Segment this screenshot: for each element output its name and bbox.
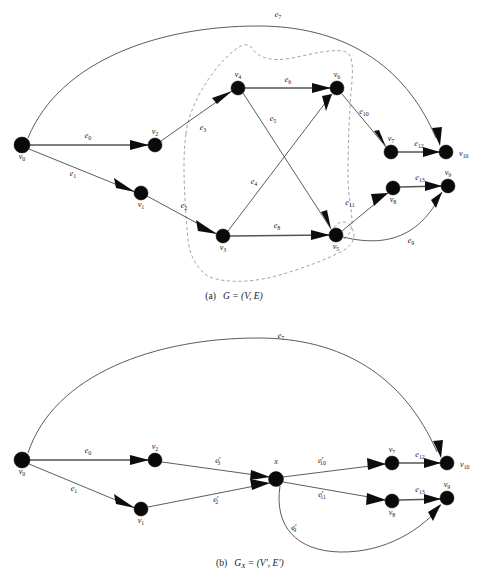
panel-a-group: v0 v1 v2 v3 v4 v5 v6 v7 v8 v9 v10 e0 e1 …	[14, 10, 469, 302]
node-b-v0[interactable]	[14, 452, 30, 468]
edge-e4-arrowhead	[322, 94, 332, 111]
edge-e1-arrowhead	[114, 178, 135, 192]
edge-b-e13-arrowhead	[424, 494, 441, 504]
edge-label-b-e12: e12	[415, 450, 425, 460]
edge-e13-arrowhead	[425, 181, 442, 191]
edge-e9-arrowhead	[431, 192, 442, 208]
edge-label-e4: e4	[251, 177, 258, 187]
figure-root: v0 v1 v2 v3 v4 v5 v6 v7 v8 v9 v10 e0 e1 …	[0, 0, 485, 580]
node-v3[interactable]	[216, 229, 230, 243]
node-label-v1: v1	[138, 200, 145, 210]
edge-label-b-e9p: e′9	[291, 523, 297, 533]
edge-label-e2: e2	[181, 201, 188, 211]
node-v7[interactable]	[384, 145, 398, 159]
node-b-x[interactable]	[269, 472, 284, 487]
panel-a-edge-labels: e0 e1 e2 e3 e4 e5 e6 e7 e8 e9 e10 e11 e1…	[70, 10, 425, 246]
node-sub-v5: 5	[336, 246, 339, 252]
node-sub-v7: 7	[391, 138, 394, 144]
node-label-v0: v0	[19, 152, 26, 162]
node-label-b-v10: v10	[460, 460, 470, 470]
edge-e7-path	[28, 26, 436, 138]
node-b-v10[interactable]	[440, 456, 454, 470]
edge-e10-arrowhead	[374, 130, 386, 147]
caption-panel-a: (a)G = (V, E)	[205, 290, 263, 302]
panel-b-nodes	[14, 452, 454, 516]
node-v5[interactable]	[329, 228, 343, 242]
edge-e6-arrowhead	[312, 83, 331, 93]
edge-label-b-e10p: e′10	[318, 456, 326, 466]
edge-b-e3prime-arrowhead	[250, 470, 270, 480]
edge-label-e9: e9	[408, 236, 415, 246]
edge-label-e8: e8	[274, 221, 281, 231]
edge-label-e13: e13	[415, 173, 425, 183]
edge-label-e6: e6	[285, 75, 292, 85]
node-b-v2[interactable]	[148, 453, 162, 467]
node-label-b-v9: v9	[444, 480, 451, 490]
panel-a-nodes	[14, 81, 455, 243]
edge-b-e7-path	[28, 338, 437, 453]
node-sub-v10: 10	[463, 153, 469, 159]
node-b-v1[interactable]	[134, 502, 148, 516]
node-v1[interactable]	[134, 186, 148, 200]
edge-label-b-e1: e1	[71, 484, 78, 494]
node-b-v8[interactable]	[385, 494, 399, 508]
cluster-boundary-dashed	[184, 45, 354, 282]
edge-e8-arrowhead	[311, 230, 330, 240]
node-sub-v6: 6	[337, 74, 340, 80]
edge-b-e9prime-arrowhead	[428, 504, 441, 521]
node-v2[interactable]	[148, 138, 162, 152]
caption-panel-b: (b)GX = (V', E')	[216, 557, 284, 570]
edge-b-e10prime-arrowhead	[367, 458, 386, 470]
edge-label-e12: e12	[414, 139, 424, 149]
edge-label-e0: e0	[85, 131, 92, 141]
panel-b-group: v0 v1 v2 x v7 v8 v9 v10 e0 e1 e′2 e′3 e7…	[14, 331, 470, 570]
edge-label-e7: e7	[275, 10, 282, 20]
node-label-v7: v7	[388, 134, 395, 144]
edge-e10-path	[342, 94, 386, 147]
node-v4[interactable]	[231, 81, 245, 95]
node-v9[interactable]	[441, 179, 455, 193]
edge-label-e10: e10	[359, 107, 369, 117]
node-label-b-v7: v7	[389, 445, 396, 455]
edge-b-e2prime-arrowhead	[250, 479, 270, 490]
edge-b-e1-arrowhead	[114, 494, 135, 508]
node-b-v7[interactable]	[385, 456, 399, 470]
node-sub-v3: 3	[223, 247, 226, 253]
node-sub-v1: 1	[141, 204, 144, 210]
edge-label-b-e7: e7	[278, 331, 285, 341]
node-sub-v4: 4	[238, 74, 241, 80]
node-label-v9: v9	[445, 168, 452, 178]
node-sub-v0: 0	[22, 156, 25, 162]
node-label-v10: v10	[459, 149, 469, 159]
node-v10[interactable]	[439, 145, 453, 159]
caption-b-body: G	[234, 557, 241, 568]
edge-label-b-e13: e13	[415, 485, 425, 495]
edge-label-e3: e3	[200, 123, 207, 133]
edge-label-b-e3p: e′3	[215, 456, 221, 466]
node-label-v2: v2	[152, 127, 159, 137]
edge-b-e11prime-arrowhead	[366, 493, 386, 505]
node-v6[interactable]	[330, 81, 344, 95]
edge-b-e7-arrowhead	[433, 440, 443, 458]
edge-b-e0-arrowhead	[130, 455, 149, 465]
caption-a-body: G = (V, E)	[223, 290, 263, 302]
node-label-v6: v6	[334, 70, 341, 80]
node-label-b-v8: v8	[389, 508, 396, 518]
node-sub-v9: 9	[448, 172, 451, 178]
edge-label-b-e2p: e′2	[213, 495, 219, 505]
node-b-v9[interactable]	[440, 491, 454, 505]
caption-a-prefix: (a)	[205, 290, 216, 302]
edge-e0-arrowhead	[130, 140, 149, 150]
caption-b-tail: = (V', E')	[245, 557, 283, 569]
graph-figure-canvas: v0 v1 v2 v3 v4 v5 v6 v7 v8 v9 v10 e0 e1 …	[0, 0, 485, 580]
node-v0[interactable]	[14, 137, 30, 153]
panel-a-node-labels: v0 v1 v2 v3 v4 v5 v6 v7 v8 v9 v10	[19, 70, 469, 253]
edge-e5-arrowhead	[321, 210, 331, 229]
node-label-b-v0: v0	[19, 467, 26, 477]
node-label-b-x: x	[273, 457, 278, 466]
node-label-v5: v5	[333, 242, 340, 252]
edge-e11-arrowhead	[371, 193, 388, 206]
node-label-v8: v8	[390, 195, 397, 205]
node-v8[interactable]	[386, 181, 400, 195]
edge-e7-arrowhead	[432, 127, 442, 146]
